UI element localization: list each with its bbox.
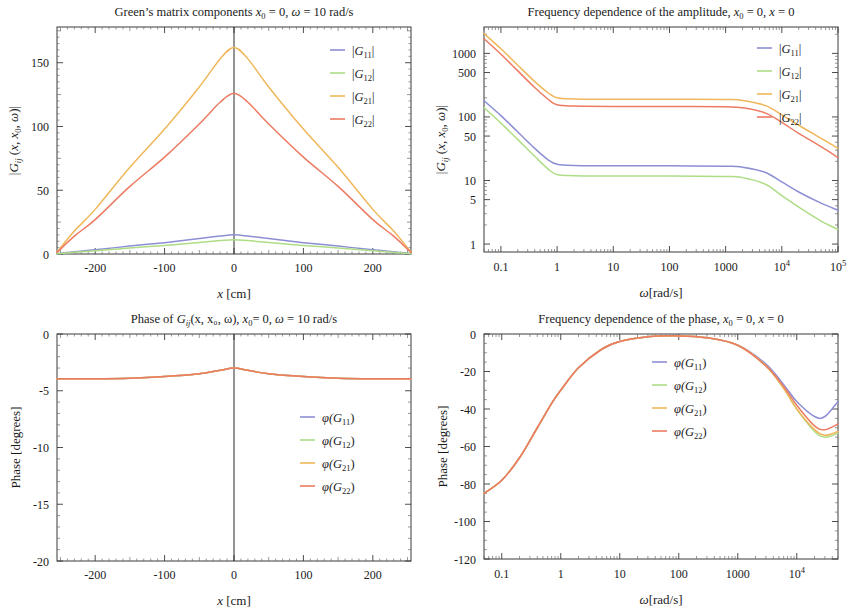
x-tick-label: 0: [231, 261, 237, 275]
y-tick-label: 500: [458, 66, 476, 80]
x-tick-label: 0.1: [494, 567, 509, 581]
y-tick-label: -5: [39, 384, 49, 398]
y-tick-label: -20: [460, 365, 476, 379]
plot-title: Frequency dependence of the phase, x0 = …: [538, 312, 783, 328]
y-tick-label: -120: [454, 553, 476, 567]
x-tick-label: 0: [231, 568, 237, 582]
legend: |G11||G12||G21||G22|: [757, 42, 802, 127]
svg-text:Phase [degrees]: Phase [degrees]: [8, 407, 23, 489]
data-curve: [484, 336, 838, 494]
legend-label: φ(G21): [674, 402, 707, 418]
y-tick-label: 5: [470, 193, 476, 207]
legend-label: |G21|: [352, 90, 375, 106]
legend-label: φ(G21): [322, 457, 355, 473]
legend-label: |G22|: [779, 111, 802, 127]
y-tick-label: 100: [31, 120, 49, 134]
svg-text:ω[rad/s]: ω[rad/s]: [639, 592, 682, 607]
svg-text:Frequency dependence of the ph: Frequency dependence of the phase, x0 = …: [538, 312, 783, 328]
data-curve: [484, 336, 838, 494]
y-tick-label: -20: [33, 555, 49, 569]
x-tick-label: 1000: [726, 567, 750, 581]
svg-text:x [cm]: x [cm]: [216, 286, 251, 301]
y-tick-label: 0: [43, 328, 49, 342]
legend-label: |G11|: [352, 44, 374, 60]
y-axis-label: Phase [degrees]: [435, 406, 450, 488]
legend: φ(G11)φ(G12)φ(G21)φ(G22): [300, 411, 355, 496]
legend: |G11||G12||G21||G22|: [330, 44, 375, 129]
panel-phase-vs-omega: Frequency dependence of the phase, x0 = …: [427, 307, 854, 614]
panel-amplitude-vs-x: Green’s matrix components x0 = 0, ω = 10…: [0, 0, 427, 307]
svg-text:Frequency dependence of the am: Frequency dependence of the amplitude, x…: [528, 5, 795, 21]
legend-label: |G11|: [779, 42, 801, 58]
plot-amplitude-vs-omega: Frequency dependence of the amplitude, x…: [427, 0, 854, 307]
svg-text:|Gij (x, x0, ω)|: |Gij (x, x0, ω)|: [6, 106, 23, 175]
x-tick-label: 10: [607, 260, 619, 274]
panel-amplitude-vs-omega: Frequency dependence of the amplitude, x…: [427, 0, 854, 307]
data-curve: [484, 336, 838, 494]
y-tick-label: 1000: [452, 47, 476, 61]
x-tick-label: 200: [364, 261, 382, 275]
y-tick-label: -80: [460, 478, 476, 492]
svg-text:Phase of Gij(x, x₀, ω), x0= 0,: Phase of Gij(x, x₀, ω), x0= 0, ω = 10 ra…: [131, 312, 337, 328]
y-tick-label: 50: [464, 130, 476, 144]
legend-label: φ(G12): [674, 379, 707, 395]
plot-amplitude-vs-x: Green’s matrix components x0 = 0, ω = 10…: [0, 0, 427, 307]
y-tick-label: -40: [460, 403, 476, 417]
y-tick-label: 50: [37, 184, 49, 198]
plot-title: Frequency dependence of the amplitude, x…: [528, 5, 795, 21]
plot-title: Phase of Gij(x, x₀, ω), x0= 0, ω = 10 ra…: [131, 312, 337, 328]
x-tick-label: 0.1: [493, 260, 508, 274]
legend-label: |G22|: [352, 113, 375, 129]
y-tick-label: 100: [458, 110, 476, 124]
legend-label: φ(G12): [322, 434, 355, 450]
y-tick-label: -10: [33, 441, 49, 455]
x-tick-label: 200: [364, 568, 382, 582]
x-tick-label: -100: [154, 568, 176, 582]
x-tick-label: 100: [670, 567, 688, 581]
legend-label: φ(G11): [322, 411, 354, 427]
y-tick-label: 10: [464, 174, 476, 188]
x-tick-label: -100: [154, 261, 176, 275]
x-axis-label: ω[rad/s]: [639, 592, 682, 607]
x-tick-label: 1000: [714, 260, 738, 274]
plot-frame: [484, 27, 838, 252]
y-tick-label: -15: [33, 498, 49, 512]
x-tick-label: -200: [84, 568, 106, 582]
x-axis-label: x [cm]: [216, 286, 251, 301]
y-axis-label: |Gij (x, x0, ω)|: [433, 105, 450, 174]
data-curve: [484, 108, 838, 230]
plot-phase-vs-x: Phase of Gij(x, x₀, ω), x0= 0, ω = 10 ra…: [0, 307, 427, 614]
svg-text:x [cm]: x [cm]: [216, 593, 251, 608]
legend-label: |G12|: [779, 65, 802, 81]
y-tick-label: 0: [470, 328, 476, 342]
x-tick-label: 1: [554, 260, 560, 274]
legend-label: φ(G22): [674, 425, 707, 441]
x-tick-label: 104: [789, 565, 806, 581]
y-tick-label: -60: [460, 440, 476, 454]
x-tick-label: 100: [294, 261, 312, 275]
y-tick-label: 1: [470, 238, 476, 252]
x-tick-label: -200: [84, 261, 106, 275]
x-tick-label: 104: [774, 258, 791, 274]
plot-frame: [484, 334, 838, 559]
y-axis-label: Phase [degrees]: [8, 407, 23, 489]
x-axis-label: ω[rad/s]: [639, 285, 682, 300]
plot-title: Green’s matrix components x0 = 0, ω = 10…: [115, 5, 354, 21]
legend-label: |G12|: [352, 67, 375, 83]
x-tick-label: 100: [660, 260, 678, 274]
y-tick-label: 150: [31, 56, 49, 70]
figure-grid: Green’s matrix components x0 = 0, ω = 10…: [0, 0, 854, 614]
y-tick-label: 0: [43, 248, 49, 262]
plot-phase-vs-omega: Frequency dependence of the phase, x0 = …: [427, 307, 854, 614]
x-axis-label: x [cm]: [216, 593, 251, 608]
x-tick-label: 1: [558, 567, 564, 581]
y-tick-label: -100: [454, 515, 476, 529]
panel-phase-vs-x: Phase of Gij(x, x₀, ω), x0= 0, ω = 10 ra…: [0, 307, 427, 614]
x-tick-label: 100: [294, 568, 312, 582]
legend: φ(G11)φ(G12)φ(G21)φ(G22): [652, 356, 707, 441]
x-tick-label: 105: [830, 258, 846, 274]
x-tick-label: 10: [614, 567, 626, 581]
legend-label: φ(G22): [322, 480, 355, 496]
legend-label: φ(G11): [674, 356, 706, 372]
svg-text:Green’s matrix components x0 =: Green’s matrix components x0 = 0, ω = 10…: [115, 5, 354, 21]
